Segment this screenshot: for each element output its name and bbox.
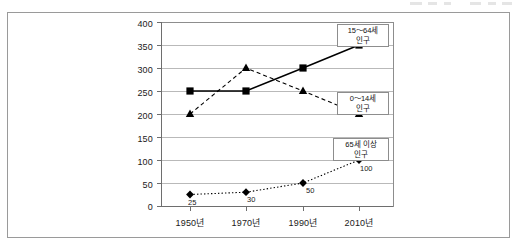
x-tick-label-1950: 1950년 [164,219,216,228]
y-tick-label-200: 200 [123,112,153,121]
data-label-1950-65plus: 25 [188,198,196,207]
data-label-1970-65plus: 30 [247,195,255,204]
y-tick-label-300: 300 [123,66,153,75]
y-tick-label-350: 350 [123,43,153,52]
y-tick-label-100: 100 [123,158,153,167]
series-label-0-to-14-line1: 0～14세 [341,94,385,104]
y-tick-label-0: 0 [123,203,153,212]
series-label-65-plus-line2: 인구 [337,150,385,160]
population-line-chart: 400 350 300 250 200 150 100 50 0 1950년 1… [0,0,518,242]
series-label-15-to-64-line1: 15～64세 [341,26,385,36]
x-tick-label-2010: 2010년 [333,219,385,228]
y-tick-label-50: 50 [123,181,153,190]
series-label-65-plus-line1: 65세 이상 [337,140,385,150]
data-label-2010-65plus: 100 [360,164,373,173]
series-label-0-to-14-line2: 인구 [341,104,385,114]
x-tick-label-1970: 1970년 [220,219,272,228]
y-tick-label-250: 250 [123,89,153,98]
series-label-0-to-14: 0～14세 인구 [337,92,389,115]
y-tick-marks [157,23,161,207]
chart-svg [0,0,518,242]
series-label-65-plus: 65세 이상 인구 [333,138,389,161]
data-label-1990-65plus: 50 [306,186,314,195]
y-tick-label-400: 400 [123,20,153,29]
series-label-15-to-64-line2: 인구 [341,36,385,46]
y-tick-label-150: 150 [123,135,153,144]
series-label-15-to-64: 15～64세 인구 [337,24,389,47]
x-tick-label-1990: 1990년 [277,219,329,228]
